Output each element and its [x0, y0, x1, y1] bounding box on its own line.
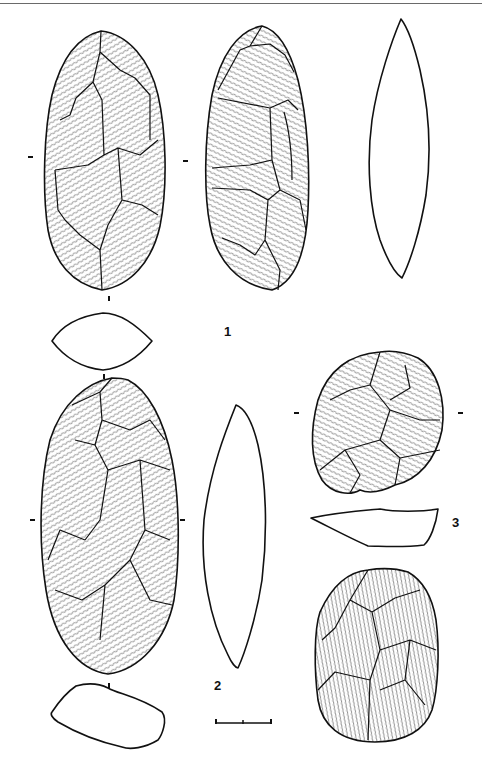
fig2-face-left-tick [30, 519, 35, 521]
fig1-cross-section [52, 313, 152, 370]
fig1-section-tick-top [108, 296, 110, 301]
fig2-label: 2 [214, 678, 221, 693]
fig2-face [41, 378, 178, 674]
fig1-section-tick-bottom [103, 374, 105, 379]
fig1-face-a-left-tick [28, 156, 33, 158]
fig3-label: 3 [452, 515, 459, 530]
fig1-face-b [206, 26, 309, 290]
fig2-face-right-tick [180, 519, 185, 521]
fig1-side-profile [369, 19, 429, 278]
fig1-face-b-left-tick [183, 160, 188, 162]
fig1-face-a [45, 31, 166, 290]
artifact-plate: 1 2 3 [0, 0, 482, 760]
fig2-section-tick [108, 683, 110, 688]
scale-bar [216, 719, 271, 724]
fig3-face-left-tick [294, 412, 299, 414]
fig1-label: 1 [224, 324, 231, 339]
fig2-cross-section [51, 684, 164, 749]
fig3-face-b [315, 569, 438, 742]
fig3-face-right-tick [458, 412, 463, 414]
fig3-face-a [312, 351, 443, 493]
fig2-side-profile [203, 405, 265, 668]
fig3-cross-section [311, 509, 438, 547]
